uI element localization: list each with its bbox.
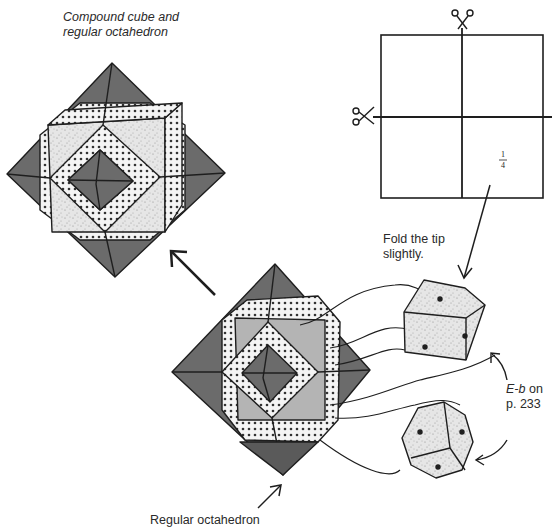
fraction-denominator: 4 — [501, 161, 505, 170]
octagon-unit-figure — [402, 402, 473, 478]
reference-code: E-b — [506, 382, 525, 396]
fraction-numerator: 1 — [501, 150, 505, 159]
title-line-1: Compound cube and — [63, 10, 179, 25]
diagram-canvas: 1 4 — [0, 0, 552, 532]
arrow-to-compound — [171, 251, 215, 295]
fold-instruction-line-1: Fold the tip — [383, 232, 445, 247]
cube-unit-figure — [404, 280, 485, 360]
arrow-to-octahedron — [258, 485, 281, 508]
octahedron-caption: Regular octahedron — [150, 513, 260, 528]
regular-octahedron-figure — [172, 264, 370, 475]
compound-cube-octahedron-figure — [7, 63, 225, 277]
reference-page: p. 233 — [506, 397, 543, 412]
reference-on: on — [525, 382, 542, 396]
fold-instruction-line-2: slightly. — [383, 247, 445, 262]
scissors-icon — [353, 107, 374, 125]
scissors-icon — [452, 10, 473, 29]
figure-title: Compound cube and regular octahedron — [63, 10, 179, 40]
page-reference: E-b on p. 233 — [506, 382, 543, 412]
arrow-to-cube-unit — [458, 185, 490, 278]
title-line-2: regular octahedron — [63, 25, 179, 40]
curved-arrows — [476, 353, 507, 465]
fold-instruction: Fold the tip slightly. — [383, 232, 445, 262]
square-sheet-figure — [373, 28, 552, 198]
